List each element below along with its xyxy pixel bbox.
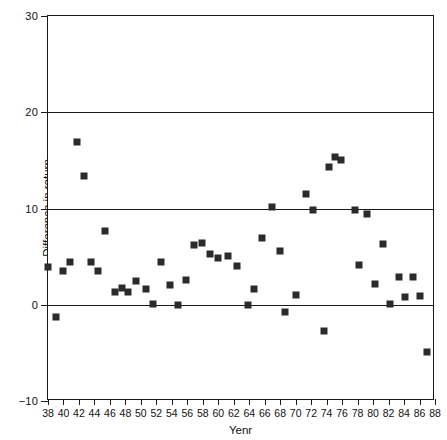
- gridline-y-20: [48, 112, 433, 113]
- x-tick-mark: [48, 399, 49, 405]
- data-point: [351, 207, 358, 214]
- data-point: [199, 240, 206, 247]
- y-tick-mark: [41, 305, 48, 306]
- data-point: [250, 286, 257, 293]
- x-tick-label: 46: [104, 407, 116, 419]
- x-tick-mark: [249, 399, 250, 405]
- x-tick-mark: [79, 399, 80, 405]
- x-tick-mark: [389, 399, 390, 405]
- y-tick-mark: [41, 209, 48, 210]
- x-tick-label: 44: [89, 407, 101, 419]
- data-point: [118, 285, 125, 292]
- data-point: [424, 348, 431, 355]
- y-tick-label: 20: [25, 106, 38, 118]
- data-point: [395, 273, 402, 280]
- x-tick-label: 54: [166, 407, 178, 419]
- x-tick-mark: [342, 399, 343, 405]
- y-tick-mark: [41, 401, 48, 402]
- x-tick-mark: [327, 399, 328, 405]
- x-tick-mark: [358, 399, 359, 405]
- x-tick-mark: [218, 399, 219, 405]
- scatter-chart-figure: Difference in return −100102030 38404244…: [0, 0, 447, 440]
- y-axis-title-container: Difference in return: [0, 15, 16, 400]
- x-tick-label: 80: [367, 407, 379, 419]
- x-tick-label: 38: [42, 407, 54, 419]
- x-tick-label: 64: [243, 407, 255, 419]
- data-point: [94, 268, 101, 275]
- y-tick-label: 0: [32, 299, 38, 311]
- data-point: [66, 259, 73, 266]
- x-tick-mark: [420, 399, 421, 405]
- data-point: [80, 172, 87, 179]
- x-tick-label: 82: [383, 407, 395, 419]
- x-tick-mark: [110, 399, 111, 405]
- data-point: [416, 293, 423, 300]
- y-tick-label: 30: [25, 10, 38, 22]
- y-tick-mark: [41, 16, 48, 17]
- x-tick-label: 56: [181, 407, 193, 419]
- x-tick-label: 84: [398, 407, 410, 419]
- data-point: [338, 157, 345, 164]
- data-point: [380, 241, 387, 248]
- x-tick-label: 50: [135, 407, 147, 419]
- data-point: [277, 247, 284, 254]
- data-point: [175, 301, 182, 308]
- data-point: [320, 327, 327, 334]
- data-point: [125, 289, 132, 296]
- x-tick-label: 74: [321, 407, 333, 419]
- data-point: [281, 309, 288, 316]
- x-tick-label: 70: [290, 407, 302, 419]
- data-point: [45, 264, 52, 271]
- x-tick-mark: [373, 399, 374, 405]
- x-tick-mark: [234, 399, 235, 405]
- data-point: [410, 273, 417, 280]
- x-tick-mark: [311, 399, 312, 405]
- data-point: [142, 286, 149, 293]
- x-tick-label: 88: [429, 407, 441, 419]
- x-tick-mark: [141, 399, 142, 405]
- x-tick-mark: [404, 399, 405, 405]
- data-point: [310, 207, 317, 214]
- x-tick-label: 48: [120, 407, 132, 419]
- y-tick-label: 10: [25, 203, 38, 215]
- data-point: [233, 263, 240, 270]
- data-point: [87, 259, 94, 266]
- data-point: [214, 254, 221, 261]
- x-tick-mark: [203, 399, 204, 405]
- x-tick-label: 60: [212, 407, 224, 419]
- x-tick-mark: [156, 399, 157, 405]
- data-point: [73, 139, 80, 146]
- x-tick-label: 68: [274, 407, 286, 419]
- x-tick-mark: [187, 399, 188, 405]
- data-point: [356, 262, 363, 269]
- data-point: [292, 292, 299, 299]
- x-tick-mark: [280, 399, 281, 405]
- x-tick-mark: [63, 399, 64, 405]
- data-point: [111, 289, 118, 296]
- data-point: [206, 250, 213, 257]
- x-tick-mark: [172, 399, 173, 405]
- x-tick-mark: [125, 399, 126, 405]
- data-point: [363, 211, 370, 218]
- data-point: [158, 259, 165, 266]
- x-tick-label: 72: [305, 407, 317, 419]
- data-point: [191, 242, 198, 249]
- x-tick-label: 42: [73, 407, 85, 419]
- data-point: [150, 300, 157, 307]
- data-point: [102, 227, 109, 234]
- x-tick-label: 58: [197, 407, 209, 419]
- y-tick-mark: [41, 112, 48, 113]
- data-point: [244, 301, 251, 308]
- data-point: [259, 235, 266, 242]
- x-tick-mark: [435, 399, 436, 405]
- plot-area: −100102030 38404244464850525456586062646…: [47, 15, 434, 400]
- data-point: [325, 164, 332, 171]
- gridline-y-10: [48, 209, 433, 210]
- x-tick-label: 40: [58, 407, 70, 419]
- x-tick-mark: [94, 399, 95, 405]
- x-tick-label: 76: [336, 407, 348, 419]
- y-tick-label: −10: [19, 395, 38, 407]
- x-axis-title: Yenr: [47, 424, 434, 436]
- data-point: [166, 281, 173, 288]
- x-tick-label: 62: [228, 407, 240, 419]
